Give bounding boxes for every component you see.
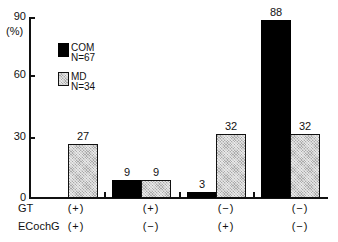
value-label-md-group3: 32	[216, 120, 246, 132]
y-unit-label: (%)	[6, 25, 30, 37]
legend-swatch-md	[58, 72, 69, 86]
ecochg-value-group3: (+)	[206, 220, 246, 232]
row-label-ecochg: ECochG	[18, 220, 60, 232]
value-label-md-group2: 9	[141, 166, 171, 178]
x-tick	[179, 192, 181, 197]
y-tick-30	[31, 137, 35, 139]
bar-com-group4	[261, 20, 291, 198]
value-label-md-group1: 27	[68, 130, 98, 142]
legend-n-md: N=34	[71, 81, 95, 92]
bar-com-group3	[187, 192, 217, 198]
x-tick	[104, 192, 106, 197]
y-axis	[29, 17, 31, 199]
y-label-30: 30	[2, 130, 26, 142]
y-tick-90	[31, 17, 35, 19]
bar-com-group2	[112, 180, 142, 198]
y-label-90: 90	[2, 10, 26, 22]
bar-md-group4	[290, 134, 320, 198]
y-tick-60	[31, 75, 35, 77]
bar-md-group2	[141, 180, 171, 198]
bar-md-group3	[216, 134, 246, 198]
value-label-com-group3: 3	[187, 178, 217, 190]
legend-swatch-com	[58, 43, 69, 57]
value-label-md-group4: 32	[290, 120, 320, 132]
value-label-com-group4: 88	[261, 6, 291, 18]
value-label-com-group2: 9	[112, 166, 142, 178]
x-tick	[253, 192, 255, 197]
ecochg-value-group1: (+)	[56, 220, 96, 232]
row-label-gt: GT	[18, 202, 33, 214]
gt-value-group3: (−)	[206, 202, 246, 214]
gt-value-group2: (+)	[131, 202, 171, 214]
bar-md-group1	[68, 144, 98, 198]
legend-n-com: N=67	[71, 52, 95, 63]
y-label-60: 60	[2, 68, 26, 80]
ecochg-value-group2: (−)	[131, 220, 171, 232]
gt-value-group4: (−)	[280, 202, 320, 214]
ecochg-value-group4: (−)	[280, 220, 320, 232]
gt-value-group1: (+)	[56, 202, 96, 214]
